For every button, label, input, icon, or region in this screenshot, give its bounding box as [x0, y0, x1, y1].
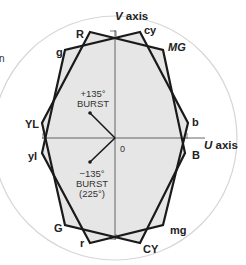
vertex-label-B: B [192, 149, 200, 161]
vertex-label-MG: MG [168, 41, 186, 53]
burst-minus-label-alt-angle: (225°) [79, 188, 105, 199]
vertex-label-b: b [192, 116, 199, 128]
vertex-label-YL: YL [25, 118, 39, 130]
vertex-label-R: R [76, 28, 84, 40]
cropped-text-fragment: n [0, 53, 5, 64]
vertex-label-mg: mg [170, 224, 187, 236]
vertex-label-g: g [56, 46, 63, 58]
u-axis-label: U axis [204, 139, 238, 151]
burst-plus-label-text: BURST [77, 98, 109, 109]
vertex-label-G: G [54, 222, 63, 234]
vectorscope-diagram: V axis U axis 0 n R MG B CY G YL cy b mg… [0, 0, 246, 265]
burst-plus-135-dot [88, 111, 92, 115]
vertex-label-yl: yl [28, 150, 37, 162]
vertex-label-cy: cy [144, 24, 157, 36]
vertex-label-CY: CY [143, 243, 159, 255]
origin-label: 0 [120, 144, 125, 154]
burst-minus-135-dot [88, 160, 92, 164]
vertex-label-r: r [80, 237, 85, 249]
v-axis-label: V axis [115, 10, 148, 22]
